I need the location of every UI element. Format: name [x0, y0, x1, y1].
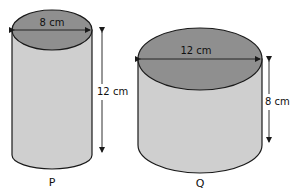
cylinder-p-diameter-label: 8 cm	[40, 17, 65, 28]
cylinder-q-diameter-label: 12 cm	[180, 45, 211, 56]
cylinder-q: 12 cm 8 cm Q	[138, 28, 290, 190]
cylinder-p-body	[12, 30, 92, 169]
cylinder-p: 8 cm 12 cm P	[12, 10, 128, 189]
cylinder-p-name-label: P	[49, 176, 56, 189]
cylinder-p-height-label: 12 cm	[97, 86, 128, 97]
cylinder-q-name-label: Q	[196, 177, 205, 190]
cylinder-q-height-label: 8 cm	[265, 96, 290, 107]
diagram-canvas: 8 cm 12 cm P 12 cm 8 cm Q	[0, 0, 292, 196]
